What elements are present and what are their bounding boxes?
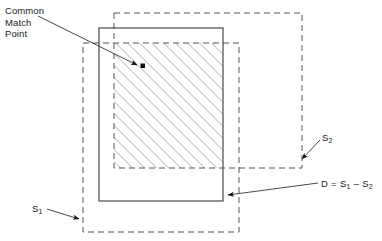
common-match-point-marker <box>141 64 146 69</box>
s1-label: S1 <box>32 203 42 216</box>
technical-diagram: Common Match Point S2 S1 D = S1 – S2 <box>0 0 382 241</box>
common-match-point-leader <box>38 16 137 65</box>
s2-leader <box>302 140 320 159</box>
formula-subscript-1: 1 <box>347 183 351 190</box>
difference-formula-label: D = S1 – S2 <box>321 178 373 191</box>
formula-subscript-2: 2 <box>369 183 373 190</box>
s2-label: S2 <box>322 132 332 145</box>
s1-leader <box>47 209 79 219</box>
common-match-point-label: Common Match Point <box>5 5 44 40</box>
formula-leader <box>228 183 318 195</box>
s2-label-subscript: 2 <box>328 137 332 144</box>
formula-d-text: D = S <box>321 178 347 189</box>
formula-minus-text: – S <box>351 178 369 189</box>
diagram-canvas <box>0 0 382 241</box>
s1-label-subscript: 1 <box>38 208 42 215</box>
